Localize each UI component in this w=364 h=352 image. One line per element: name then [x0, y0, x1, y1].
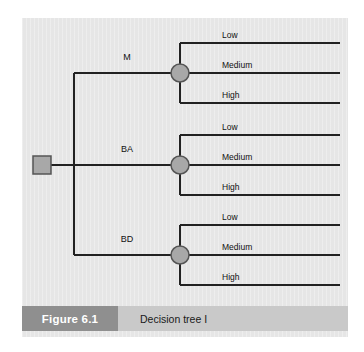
figure-caption-bar: Figure 6.1 Decision tree I — [22, 306, 348, 331]
outcome-label-m-low: Low — [222, 30, 238, 40]
chance-node-ba — [171, 156, 189, 174]
outcome-label-bd-medium: Medium — [222, 242, 252, 252]
branch-label-m: M — [123, 52, 131, 62]
tree-edges — [51, 43, 340, 285]
outcome-label-m-medium: Medium — [222, 60, 252, 70]
figure-caption-title: Decision tree I — [140, 306, 207, 331]
figure-number-text: Figure 6.1 — [42, 313, 98, 325]
chance-node-m — [171, 64, 189, 82]
branch-label-bd: BD — [121, 234, 134, 244]
outcome-label-m-high: High — [222, 90, 239, 100]
branch-label-ba: BA — [121, 144, 133, 154]
outcome-label-bd-high: High — [222, 272, 239, 282]
decision-tree-graphic — [0, 0, 364, 352]
chance-node-bd — [171, 246, 189, 264]
figure-container: M BA BD Low Medium High Low Medium High … — [0, 0, 364, 352]
figure-number-block: Figure 6.1 — [22, 306, 118, 331]
outcome-label-ba-medium: Medium — [222, 152, 252, 162]
outcome-label-ba-low: Low — [222, 122, 238, 132]
outcome-label-bd-low: Low — [222, 212, 238, 222]
decision-node-square — [33, 156, 51, 174]
outcome-label-ba-high: High — [222, 182, 239, 192]
